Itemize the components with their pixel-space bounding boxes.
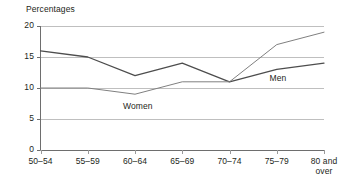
- x-axis-tick-label: 80 andover: [301, 157, 342, 176]
- series-label-men: Men: [270, 74, 287, 83]
- x-axis-tick-label-line2: over: [301, 167, 342, 177]
- series-label-women: Women: [123, 102, 153, 111]
- series-lines: [41, 32, 325, 94]
- x-axis-tick-label: 55–59: [65, 157, 111, 167]
- x-axis-tick-label-line1: 50–54: [28, 156, 52, 166]
- y-axis-tick-label: 0: [14, 145, 34, 154]
- y-axis-tick-label: 20: [14, 21, 34, 30]
- x-axis-tick-label-line1: 70–74: [217, 156, 241, 166]
- x-axis-tick-label-line1: 80 and: [311, 156, 338, 166]
- x-axis-tick-label: 50–54: [18, 157, 64, 167]
- x-axis-tick-label-line1: 60–64: [123, 156, 147, 166]
- y-axis-ticks: [37, 27, 41, 151]
- x-axis-tick-label: 70–74: [207, 157, 253, 167]
- x-axis-tick-label: 65–69: [159, 157, 205, 167]
- y-axis-tick-label: 10: [14, 83, 34, 92]
- x-axis-tick-label-line1: 55–59: [76, 156, 100, 166]
- x-axis-tick-label: 75–79: [254, 157, 300, 167]
- x-axis-tick-label: 60–64: [112, 157, 158, 167]
- y-axis-tick-label: 15: [14, 52, 34, 61]
- x-axis-tick-label-line1: 75–79: [265, 156, 289, 166]
- x-axis-tick-label-line1: 65–69: [170, 156, 194, 166]
- y-axis-tick-label: 5: [14, 114, 34, 123]
